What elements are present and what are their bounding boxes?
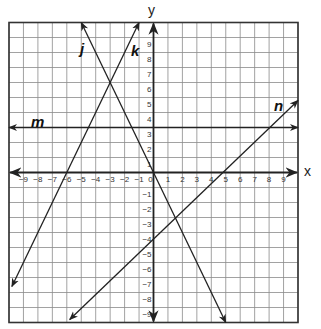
x-tick-label: 6 [238, 175, 243, 184]
x-tick-label: −3 [106, 175, 116, 184]
x-axis-label: x [304, 163, 311, 179]
y-tick-label: 8 [147, 55, 152, 64]
x-tick-label: −2 [120, 175, 130, 184]
y-tick-label: −8 [142, 295, 152, 304]
x-tick-label: 8 [267, 175, 272, 184]
line-k [12, 23, 139, 287]
x-tick-label: −9 [19, 175, 29, 184]
x-tick-label: 3 [195, 175, 200, 184]
coordinate-plane: −9−8−7−6−5−4−3−2−10123456789−9−8−7−6−5−4… [0, 0, 321, 329]
x-tick-label: −7 [48, 175, 58, 184]
y-tick-label: −3 [142, 220, 152, 229]
x-tick-label: −5 [77, 175, 87, 184]
graph-svg: −9−8−7−6−5−4−3−2−10123456789−9−8−7−6−5−4… [0, 0, 321, 329]
x-tick-label: −8 [33, 175, 43, 184]
x-tick-label: 1 [166, 175, 171, 184]
y-tick-label: −6 [142, 265, 152, 274]
x-tick-label: 7 [252, 175, 257, 184]
line-label-n: n [274, 97, 283, 114]
y-tick-label: 6 [147, 85, 152, 94]
y-tick-label: −1 [142, 190, 152, 199]
y-tick-label: 3 [147, 130, 152, 139]
line-label-k: k [131, 42, 139, 59]
y-tick-label: 5 [147, 100, 152, 109]
y-tick-label: −5 [142, 250, 152, 259]
y-tick-label: 2 [147, 145, 152, 154]
x-tick-label: 2 [180, 175, 185, 184]
y-tick-label: −2 [142, 205, 152, 214]
y-axis-label: y [148, 2, 155, 18]
x-tick-label: −1 [134, 175, 144, 184]
y-tick-label: 7 [147, 70, 152, 79]
y-tick-label: −7 [142, 280, 152, 289]
x-tick-label: 5 [224, 175, 229, 184]
line-n [70, 101, 298, 320]
line-label-j: j [80, 40, 84, 57]
x-tick-label: 9 [281, 175, 286, 184]
line-label-m: m [31, 113, 44, 130]
x-tick-label: 0 [148, 175, 153, 184]
y-tick-label: −9 [142, 310, 152, 319]
y-tick-label: 4 [147, 115, 152, 124]
y-tick-label: 9 [147, 40, 152, 49]
x-tick-label: −4 [91, 175, 101, 184]
